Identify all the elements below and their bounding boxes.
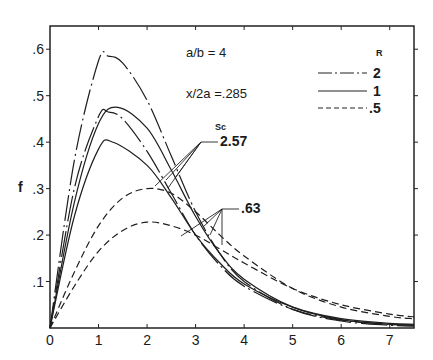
x-tick-label: 3	[192, 332, 200, 348]
leader-line	[168, 142, 201, 188]
legend: R 2 1 .5	[318, 48, 383, 116]
x-tick-label: 6	[337, 332, 345, 348]
plot-frame	[50, 26, 414, 328]
y-tick-label: .4	[32, 134, 44, 150]
x-tick-label: 1	[95, 332, 103, 348]
legend-label: 2	[373, 65, 381, 81]
chart: 01234567 .1.2.3.4.5.6 f a/b = 4 x/2a =.2…	[0, 0, 433, 360]
annotation-sc-header: Sc	[215, 122, 226, 132]
x-tick-labels: 01234567	[46, 332, 394, 348]
annotation-sc-high: 2.57	[220, 133, 247, 149]
y-axis-label: f	[18, 179, 23, 195]
x-tick-label: 4	[240, 332, 248, 348]
y-tick-labels: .1.2.3.4.5.6	[32, 41, 44, 289]
series-line-4	[50, 140, 414, 328]
x-tick-label: 2	[143, 332, 151, 348]
x-tick-label: 0	[46, 332, 54, 348]
leader-lines-sc-high	[155, 142, 218, 188]
y-tick-label: .2	[32, 227, 44, 243]
legend-title: R	[376, 48, 383, 58]
annotation-position: x/2a =.285	[186, 86, 247, 101]
leader-line	[203, 209, 222, 227]
legend-label: .5	[369, 100, 381, 116]
y-tick-label: .1	[32, 274, 44, 290]
x-tick-label: 5	[289, 332, 297, 348]
leader-line	[166, 142, 201, 180]
leader-line	[155, 142, 218, 186]
y-tick-label: .5	[32, 88, 44, 104]
annotation-sc-low: .63	[241, 200, 261, 216]
axis-ticks	[46, 26, 418, 328]
annotation-ratio: a/b = 4	[186, 45, 226, 60]
legend-label: 1	[373, 83, 381, 99]
x-tick-label: 7	[386, 332, 394, 348]
y-tick-label: .3	[32, 181, 44, 197]
y-tick-label: .6	[32, 41, 44, 57]
